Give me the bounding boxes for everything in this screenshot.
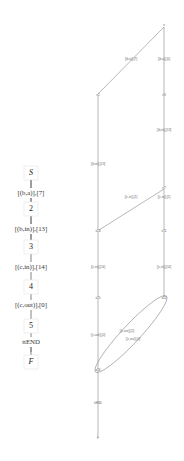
right-node-s14: s14 — [95, 229, 100, 233]
left-edge-label-5: ttEND — [22, 338, 40, 345]
right-graph: [(b,a)],[7] [(b,a)],[0] [(b,in)],[13] [(… — [89, 23, 173, 440]
edge-label-s7-s14: [(c,in)],[1] — [125, 195, 138, 199]
edge-label-s12-s16-b: [(c,out)],[0] — [126, 337, 141, 341]
edge-label-s11-s12: [(c,in)],[14] — [157, 265, 171, 269]
edge-label-s6-s7: [(b,in)],[13] — [157, 128, 172, 132]
left-edge-label-4: [(c,out)],[0] — [15, 301, 47, 309]
left-node-3: 3 — [29, 242, 33, 251]
edge-label-s7-s11: [(c,in)],[1] — [158, 195, 171, 199]
left-node-s: S — [29, 168, 33, 177]
left-node-2: 2 — [29, 204, 33, 213]
right-node-s: s — [163, 23, 165, 27]
right-node-s12: s12 — [161, 296, 166, 300]
left-edge-label-1: [(b,a)],[7] — [18, 189, 45, 197]
right-node-s16: s16 — [95, 368, 100, 372]
edge-label-s-s1: [(b,a)],[7] — [125, 57, 137, 61]
right-node-s11: s11 — [162, 229, 167, 233]
right-node-s1: s1 — [96, 93, 100, 97]
left-node-5: 5 — [29, 321, 33, 330]
edge-label-s12-s16-a: [(c,out)],[2] — [120, 329, 135, 333]
right-node-f: F — [97, 436, 99, 440]
left-edge-label-2: [(b,in)],[13] — [15, 225, 47, 233]
left-node-4: 4 — [29, 282, 33, 291]
edge-label-s15-s16: [(c,out)],[0] — [91, 333, 106, 337]
edge-label-s-s6: [(b,a)],[0] — [158, 57, 170, 61]
right-node-s15: s15 — [95, 296, 100, 300]
edge-label-s16-f: ttEND — [94, 401, 103, 405]
right-node-s6: s6 — [162, 93, 166, 97]
edge-label-s1-s14: [(b,in)],[13] — [91, 162, 106, 166]
right-node-s7: s7 — [162, 186, 166, 190]
edge-label-s14-s15: [(c,in)],[14] — [91, 265, 105, 269]
left-edge-label-3: [(c,in)],[14] — [15, 263, 47, 271]
left-chain: S [(b,a)],[7] 2 [(b,in)],[13] 3 [(c,in)]… — [10, 166, 52, 369]
diagram-canvas: S [(b,a)],[7] 2 [(b,in)],[13] 3 [(c,in)]… — [0, 0, 184, 461]
left-node-f: F — [28, 357, 34, 366]
